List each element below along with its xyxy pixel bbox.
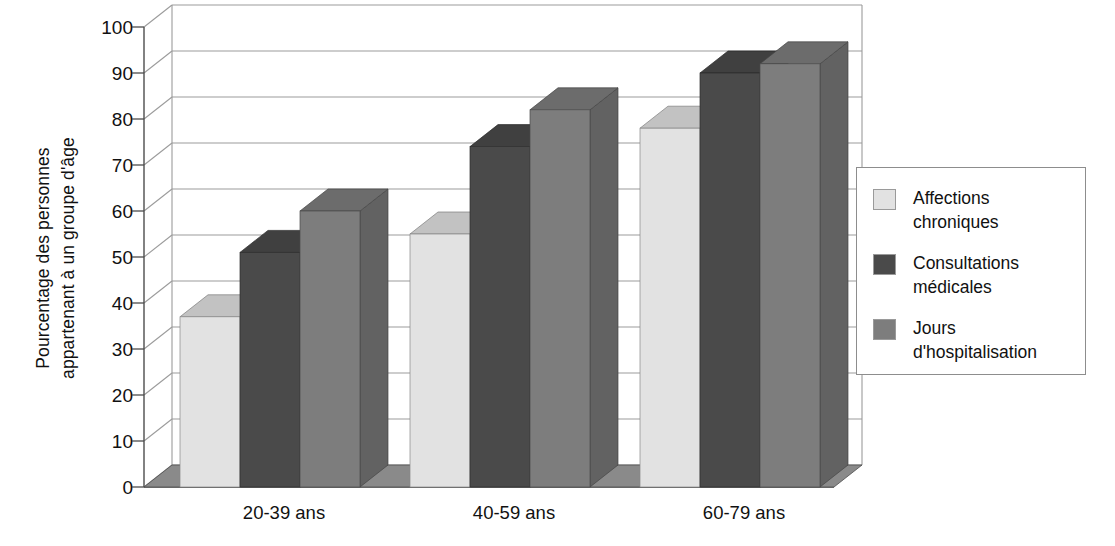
legend-swatch-icon (873, 319, 896, 340)
x-axis-tick-label: 20-39 ans (243, 502, 325, 524)
gridline-depth (144, 235, 172, 257)
bar-front-face (300, 211, 360, 487)
bar-front-face (530, 110, 590, 487)
bar-chart: Pourcentage des personnes appartenant à … (0, 0, 1115, 546)
x-axis-tick-labels: 20-39 ans40-59 ans60-79 ans (0, 502, 1115, 538)
legend-item[interactable]: Consultations médicales (873, 251, 1019, 299)
legend-swatch-icon (873, 189, 896, 210)
gridline-depth (144, 419, 172, 441)
bar-3d (530, 88, 618, 487)
bar-side-face (590, 88, 618, 487)
bar-side-face (360, 189, 388, 487)
bar-3d (300, 189, 388, 487)
legend-item-label: Consultations médicales (913, 251, 1019, 299)
legend-item[interactable]: Affections chroniques (873, 186, 999, 234)
bar-front-face (240, 252, 300, 487)
gridline-depth (144, 189, 172, 211)
bar-side-face (820, 42, 848, 487)
legend-swatch-icon (873, 254, 896, 275)
gridline-depth (144, 51, 172, 73)
gridline-depth (144, 327, 172, 349)
gridline-depth (144, 5, 172, 27)
bar-front-face (640, 128, 700, 487)
gridline-depth (144, 143, 172, 165)
bar-front-face (760, 64, 820, 487)
gridline-depth (144, 97, 172, 119)
bar-front-face (700, 73, 760, 487)
x-axis-tick-label: 60-79 ans (703, 502, 785, 524)
legend-item-label: Affections chroniques (913, 186, 999, 234)
bar-front-face (470, 147, 530, 487)
legend-item[interactable]: Jours d'hospitalisation (873, 316, 1037, 364)
bar-front-face (180, 317, 240, 487)
legend: Affections chroniquesConsultations médic… (856, 167, 1086, 375)
x-axis-tick-label: 40-59 ans (473, 502, 555, 524)
gridline-depth (144, 373, 172, 395)
bars (180, 42, 848, 487)
gridline-depth (144, 281, 172, 303)
bar-3d (760, 42, 848, 487)
legend-item-label: Jours d'hospitalisation (913, 316, 1037, 364)
bar-front-face (410, 234, 470, 487)
